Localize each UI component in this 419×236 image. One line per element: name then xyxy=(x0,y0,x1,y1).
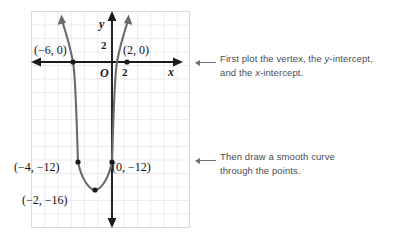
callout-step-2: Then draw a smooth curve through the poi… xyxy=(220,150,416,178)
x-axis-label: x xyxy=(168,66,174,78)
label-y-intercept: (0, −12) xyxy=(112,161,151,173)
callout-arrow-step-1 xyxy=(196,62,216,63)
callout-step-1-line1-part2: -intercept, xyxy=(329,53,372,64)
x-axis-tick-2: 2 xyxy=(122,67,128,78)
point-vertex xyxy=(92,187,97,192)
y-axis-label: y xyxy=(99,18,104,30)
label-x-intercept-right: (2, 0) xyxy=(123,44,149,56)
callout-step-1-line2-part2: -intercept. xyxy=(260,67,303,78)
callout-step-1-line1-part1: First plot the vertex, the xyxy=(220,53,325,64)
label-symmetric-point: (−4, −12) xyxy=(14,161,60,173)
callout-step-2-line1: Then draw a smooth curve xyxy=(220,151,335,162)
label-x-intercept-left: (−6, 0) xyxy=(34,44,67,56)
callout-step-1: First plot the vertex, the y-intercept, … xyxy=(220,52,416,80)
label-vertex: (−2, −16) xyxy=(22,194,68,206)
origin-label: O xyxy=(100,67,109,79)
point-symmetric xyxy=(75,159,80,164)
callout-step-1-line2-part1: and the xyxy=(220,67,255,78)
point-x-intercept-left xyxy=(70,59,75,64)
callout-arrow-step-2 xyxy=(196,160,216,161)
y-axis xyxy=(108,11,117,228)
point-x-intercept-right xyxy=(124,59,129,64)
y-axis-tick-2: 2 xyxy=(101,40,107,51)
callout-step-2-line2: through the points. xyxy=(220,165,301,176)
figure-canvas: y x 2 O 2 (−6, 0) (2, 0) (−4, −12) (0, −… xyxy=(0,0,419,236)
